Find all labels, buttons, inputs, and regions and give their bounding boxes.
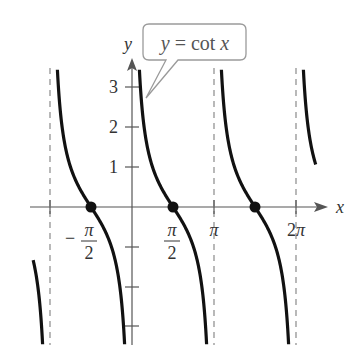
cotangent-chart: x y 3 2 1 − π 2 π 2 π 2π y = cot x [0, 0, 353, 363]
axes [30, 58, 328, 345]
svg-text:2π: 2π [287, 220, 306, 240]
zero-point-half-pi [168, 202, 179, 213]
zero-point-three-half-pi [250, 202, 261, 213]
x-tick-label-2pi: 2π [287, 220, 306, 240]
y-axis-label: y [122, 34, 132, 54]
y-tick-label-2: 2 [109, 117, 118, 137]
svg-text:π: π [167, 220, 177, 240]
svg-text:2: 2 [85, 243, 94, 263]
curve-branch-4 [303, 70, 315, 165]
y-tick-label-1: 1 [109, 157, 118, 177]
x-axis-label: x [335, 197, 344, 217]
svg-text:−: − [65, 228, 75, 248]
function-callout: y = cot x [143, 24, 246, 98]
x-tick-label-neg-half-pi: − π 2 [65, 220, 97, 263]
svg-text:2: 2 [168, 243, 177, 263]
curve-branch-0 [33, 260, 42, 344]
zero-point-neg-half-pi [86, 202, 97, 213]
callout-label: y = cot x [159, 32, 230, 55]
x-tick-label-half-pi: π 2 [164, 220, 180, 263]
x-tick-label-pi: π [209, 220, 219, 240]
y-tick-label-3: 3 [109, 77, 118, 97]
svg-text:π: π [84, 220, 94, 240]
